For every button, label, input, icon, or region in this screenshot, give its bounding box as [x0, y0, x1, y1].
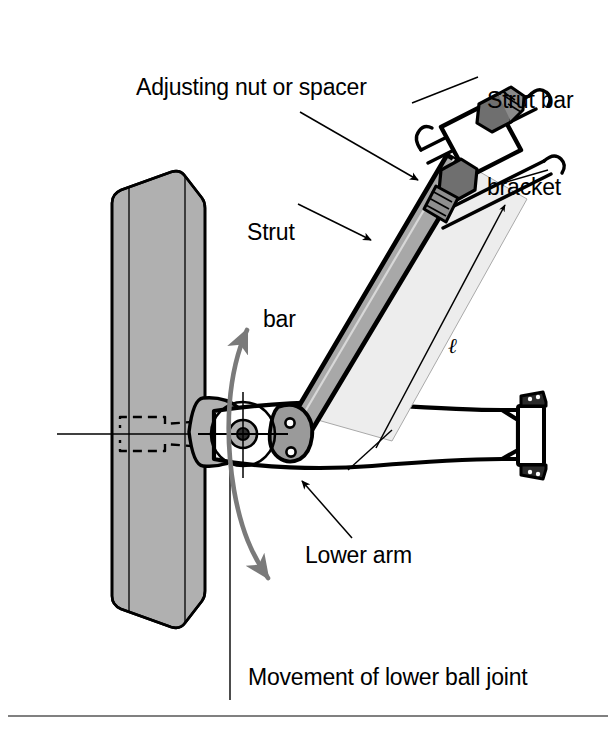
bushing-bottom-bracket	[521, 465, 546, 479]
bushing-top-hole	[528, 397, 532, 401]
label-lower-arm: Lower arm	[305, 541, 412, 570]
dimension-symbol-ell: ℓ	[448, 334, 457, 359]
bushing-sleeve	[518, 406, 544, 465]
figure-root: Adjusting nut or spacer Strut bar bracke…	[0, 0, 616, 736]
leader-strut-bar-bracket	[412, 77, 478, 103]
label-adjusting-nut: Adjusting nut or spacer	[136, 73, 367, 102]
bushing-top-bracket	[521, 392, 546, 406]
label-strut-bar-line1: Strut	[247, 218, 296, 247]
label-strut-bar: Strut bar	[247, 160, 296, 392]
label-strut-bar-line2: bar	[247, 305, 296, 334]
clevis-lower-bolt	[286, 447, 295, 456]
leader-lower-arm	[302, 481, 352, 538]
leader-adjusting-nut	[300, 112, 418, 180]
bushing-bottom-hole	[528, 470, 532, 474]
lower-arm-inner-pivot-bushing	[518, 392, 546, 479]
leader-strut-bar	[298, 204, 371, 240]
label-strut-bar-bracket: Strut bar bracket	[487, 28, 573, 260]
clevis-upper-bolt	[285, 418, 294, 427]
caption-line-1: Movement of lower ball joint	[248, 662, 528, 692]
label-strut-bar-bracket-line1: Strut bar	[487, 86, 573, 115]
tire-body	[112, 171, 205, 628]
tire	[112, 170, 205, 642]
caption-movement: Movement of lower ball joint center when…	[248, 602, 528, 736]
bushing-bottom-hole-2	[536, 472, 540, 476]
lower-arm-taper	[502, 410, 518, 459]
label-strut-bar-bracket-line2: bracket	[487, 173, 573, 202]
bushing-top-hole-2	[536, 395, 540, 399]
